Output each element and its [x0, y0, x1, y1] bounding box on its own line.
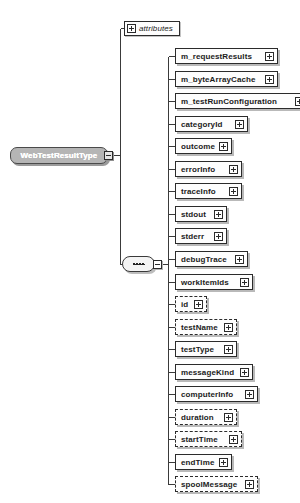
element-node[interactable]: spoolMessage [175, 476, 258, 492]
element-node[interactable]: m_testRunConfiguration [175, 93, 300, 109]
element-label: duration [181, 413, 220, 422]
element-node[interactable]: stdout [175, 206, 227, 222]
element-node[interactable]: categoryId [175, 116, 248, 132]
expand-plus-icon[interactable] [240, 368, 249, 377]
element-node[interactable]: debugTrace [175, 251, 248, 267]
element-label: errorInfo [181, 165, 225, 174]
element-node[interactable]: testName [175, 319, 237, 335]
expand-plus-icon[interactable] [229, 165, 238, 174]
collapse-minus-icon[interactable] [104, 151, 113, 160]
element-node[interactable]: endTime [175, 454, 232, 470]
attributes-node[interactable]: attributes [124, 21, 180, 36]
root-type-label: WebTestResultType [21, 151, 98, 160]
expand-plus-icon[interactable] [235, 255, 244, 264]
expand-plus-icon[interactable] [224, 345, 233, 354]
element-label: workItemIds [181, 278, 236, 287]
collapse-minus-icon[interactable] [153, 260, 162, 269]
expand-plus-icon[interactable] [214, 210, 223, 219]
element-node[interactable]: id [175, 296, 207, 312]
sequence-line-icon [134, 264, 145, 265]
element-label: id [181, 300, 190, 309]
element-node[interactable]: errorInfo [175, 161, 242, 177]
expand-plus-icon[interactable] [229, 435, 238, 444]
element-label: computerInfo [181, 390, 241, 399]
expand-plus-icon[interactable] [219, 142, 228, 151]
element-label: outcome [181, 142, 215, 151]
element-label: debugTrace [181, 255, 231, 264]
element-node[interactable]: traceInfo [175, 183, 242, 199]
expand-plus-icon[interactable] [295, 97, 300, 106]
element-node[interactable]: testType [175, 341, 237, 357]
element-label: m_requestResults [181, 52, 261, 61]
root-type-node[interactable]: WebTestResultType [10, 147, 108, 164]
element-node[interactable]: startTime [175, 431, 242, 447]
expand-plus-icon[interactable] [265, 52, 274, 61]
element-node[interactable]: m_requestResults [175, 48, 278, 64]
xsd-diagram-canvas: WebTestResultType attributes m_requestRe… [0, 0, 300, 503]
expand-plus-icon[interactable] [224, 323, 233, 332]
expand-plus-icon[interactable] [245, 480, 254, 489]
expand-plus-icon[interactable] [224, 413, 233, 422]
element-node[interactable]: messageKind [175, 364, 253, 380]
expand-plus-icon[interactable] [219, 458, 228, 467]
expand-plus-icon[interactable] [229, 187, 238, 196]
expand-plus-icon[interactable] [235, 120, 244, 129]
expand-plus-icon[interactable] [127, 24, 136, 33]
element-label: testType [181, 345, 220, 354]
element-label: messageKind [181, 368, 236, 377]
element-label: endTime [181, 458, 215, 467]
element-label: spoolMessage [181, 480, 241, 489]
element-label: stderr [181, 232, 210, 241]
sequence-compositor-node[interactable] [122, 256, 155, 272]
element-label: testName [181, 323, 220, 332]
element-node[interactable]: m_byteArrayCache [175, 71, 278, 87]
element-node[interactable]: stderr [175, 228, 227, 244]
element-label: m_byteArrayCache [181, 75, 261, 84]
element-label: categoryId [181, 120, 231, 129]
element-label: startTime [181, 435, 225, 444]
attributes-label: attributes [139, 24, 173, 33]
element-node[interactable]: computerInfo [175, 386, 258, 402]
element-label: stdout [181, 210, 210, 219]
element-node[interactable]: duration [175, 409, 237, 425]
element-node[interactable]: outcome [175, 138, 232, 154]
element-node[interactable]: workItemIds [175, 274, 253, 290]
expand-plus-icon[interactable] [214, 232, 223, 241]
element-label: traceInfo [181, 187, 225, 196]
expand-plus-icon[interactable] [265, 75, 274, 84]
expand-plus-icon[interactable] [194, 300, 203, 309]
expand-plus-icon[interactable] [240, 278, 249, 287]
element-label: m_testRunConfiguration [181, 97, 291, 106]
expand-plus-icon[interactable] [245, 390, 254, 399]
